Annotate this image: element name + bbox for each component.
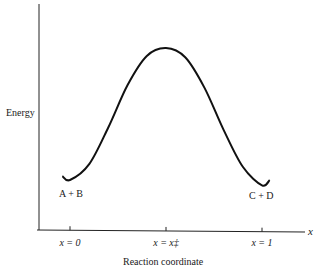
y-axis-label: Energy (6, 107, 35, 118)
x-tick-label: x = 1 (250, 237, 272, 248)
annotation-reactants: A + B (59, 188, 83, 199)
energy-diagram: x Energy Reaction coordinate x = 0x = x‡… (0, 0, 318, 272)
x-axis-label: Reaction coordinate (123, 256, 204, 267)
x-tick-label: x = 0 (58, 237, 80, 248)
x-axis-end-label: x (307, 225, 313, 237)
annotation-products: C + D (249, 190, 274, 201)
x-axis (37, 230, 305, 232)
energy-curve (62, 48, 269, 186)
x-tick-label: x = x‡ (152, 237, 180, 248)
